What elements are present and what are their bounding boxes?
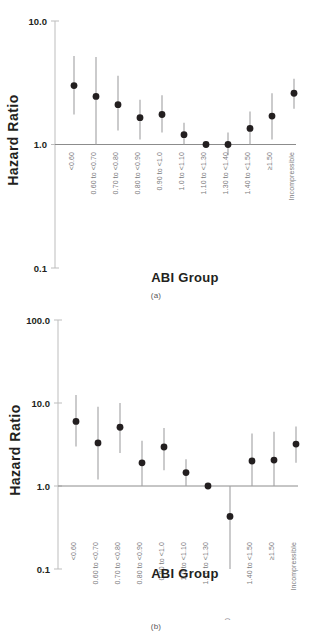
x-tick-label: 0.70 to <0.80 bbox=[112, 152, 119, 194]
panel-a: Hazard Ratio10.01.00.1<0.600.60 to <0.70… bbox=[0, 0, 312, 318]
x-tick-label: 1.0 to <1.10 bbox=[178, 152, 185, 190]
x-tick-label: Incompressible bbox=[288, 152, 296, 200]
forest-plot-a: Hazard Ratio10.01.00.1<0.600.60 to <0.70… bbox=[0, 0, 312, 300]
hazard-ratio-marker bbox=[73, 418, 80, 425]
x-axis-label: ABI Group bbox=[151, 270, 219, 285]
figure-container: Hazard Ratio10.01.00.1<0.600.60 to <0.70… bbox=[0, 0, 312, 634]
data-point-group: 0.60 to <0.70 bbox=[90, 57, 99, 194]
x-tick-label: <0.60 bbox=[68, 152, 75, 170]
hazard-ratio-marker bbox=[227, 513, 234, 520]
hazard-ratio-marker bbox=[159, 111, 166, 118]
x-tick-label: 1.30 to <1.40 bbox=[222, 152, 229, 194]
data-point-group: 1.0 to <1.10 bbox=[178, 123, 187, 191]
data-point-group: 1.10 to <1.30 bbox=[200, 141, 209, 194]
data-point-group: 1.40 to <1.50 bbox=[244, 112, 253, 195]
y-tick-label: 10.0 bbox=[32, 398, 51, 409]
y-tick-label: 1.0 bbox=[34, 139, 47, 150]
data-point-group: 0.70 to <0.80 bbox=[112, 76, 121, 195]
data-point-group: 0.80 to <0.90 bbox=[134, 100, 143, 195]
hazard-ratio-marker bbox=[161, 444, 168, 451]
data-point-group: 0.60 to <0.70 bbox=[92, 407, 101, 585]
hazard-ratio-marker bbox=[205, 483, 212, 490]
panel-a-caption: (a) bbox=[0, 291, 312, 300]
x-tick-label: 0.70 to <0.80 bbox=[114, 542, 121, 584]
hazard-ratio-marker bbox=[291, 90, 298, 97]
hazard-ratio-marker bbox=[71, 82, 78, 89]
y-tick-label: 0.1 bbox=[34, 263, 48, 274]
x-tick-label: 0.80 to <0.90 bbox=[134, 152, 141, 194]
hazard-ratio-marker bbox=[115, 101, 122, 108]
data-point-group: Incompressible bbox=[290, 427, 299, 591]
hazard-ratio-marker bbox=[181, 131, 188, 138]
data-point-group: 1.40 to <1.50 bbox=[246, 433, 255, 584]
panel-b-caption: (b) bbox=[0, 622, 312, 631]
x-tick-label: 1.40 to <1.50 bbox=[244, 152, 251, 194]
y-tick-label: 0.1 bbox=[37, 564, 51, 575]
x-axis-label: ABI Group bbox=[151, 566, 219, 581]
x-tick-label: 1.30 to <1.40 bbox=[224, 618, 231, 620]
data-point-group: ≥1.50 bbox=[266, 93, 275, 170]
x-tick-label: ≥1.50 bbox=[268, 542, 275, 560]
hazard-ratio-marker bbox=[95, 440, 102, 447]
x-tick-label: Incompressible bbox=[290, 542, 298, 590]
hazard-ratio-marker bbox=[269, 113, 276, 120]
y-tick-label: 100.0 bbox=[26, 315, 50, 326]
x-tick-label: 1.10 to <1.30 bbox=[200, 152, 207, 194]
y-axis-label: Hazard Ratio bbox=[7, 404, 23, 496]
x-tick-label: 0.80 to <0.90 bbox=[136, 542, 143, 584]
data-point-group: 1.30 to <1.40 bbox=[222, 133, 231, 195]
y-tick-label: 10.0 bbox=[29, 16, 48, 27]
data-point-group: <0.60 bbox=[70, 395, 79, 560]
data-point-group: 0.80 to <0.90 bbox=[136, 441, 145, 585]
hazard-ratio-marker bbox=[247, 125, 254, 132]
x-tick-label: 1.40 to <1.50 bbox=[246, 542, 253, 584]
forest-plot-b: Hazard Ratio100.010.01.00.1<0.600.60 to … bbox=[0, 310, 312, 620]
hazard-ratio-marker bbox=[225, 141, 232, 148]
data-point-group: 0.90 to <1.0 bbox=[158, 428, 167, 580]
y-axis-label: Hazard Ratio bbox=[5, 94, 21, 186]
hazard-ratio-marker bbox=[117, 424, 124, 431]
y-tick-label: 1.0 bbox=[37, 481, 50, 492]
hazard-ratio-marker bbox=[203, 141, 210, 148]
data-point-group: 1.30 to <1.40 bbox=[224, 486, 233, 620]
hazard-ratio-marker bbox=[139, 459, 146, 466]
x-tick-label: 0.90 to <1.0 bbox=[156, 152, 163, 190]
hazard-ratio-marker bbox=[249, 458, 256, 465]
panel-b: Hazard Ratio100.010.01.00.1<0.600.60 to … bbox=[0, 310, 312, 634]
data-point-group: <0.60 bbox=[68, 56, 77, 170]
x-tick-label: 0.60 to <0.70 bbox=[90, 152, 97, 194]
x-tick-label: ≥1.50 bbox=[266, 152, 273, 170]
x-tick-label: <0.60 bbox=[70, 542, 77, 560]
hazard-ratio-marker bbox=[271, 457, 278, 464]
hazard-ratio-marker bbox=[137, 114, 144, 121]
hazard-ratio-marker bbox=[293, 441, 300, 448]
data-point-group: ≥1.50 bbox=[268, 432, 277, 560]
hazard-ratio-marker bbox=[183, 469, 190, 476]
hazard-ratio-marker bbox=[93, 93, 100, 100]
x-tick-label: 0.60 to <0.70 bbox=[92, 542, 99, 584]
data-point-group: 0.70 to <0.80 bbox=[114, 403, 123, 584]
data-point-group: 0.90 to <1.0 bbox=[156, 95, 165, 190]
data-point-group: 1.0 to <1.10 bbox=[180, 459, 189, 580]
data-point-group: Incompressible bbox=[288, 79, 297, 201]
